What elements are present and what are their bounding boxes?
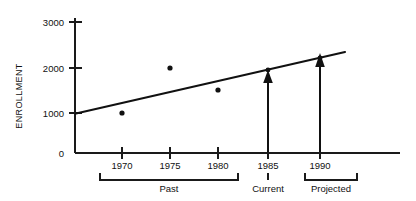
x-tick-label-1970: 1970 bbox=[111, 160, 132, 171]
y-tick-label-1000: 1000 bbox=[43, 108, 64, 119]
x-tick-label-1990: 1990 bbox=[309, 160, 330, 171]
x-tick-label-1980: 1980 bbox=[207, 160, 228, 171]
x-tick-label-1975: 1975 bbox=[159, 160, 180, 171]
x-tick-label-1985: 1985 bbox=[257, 160, 278, 171]
y-tick-label-0: 0 bbox=[59, 148, 64, 159]
chart-canvas: ENROLLMENT 3000 2000 1000 0 1970 1975 19… bbox=[0, 0, 416, 201]
y-axis-title: ENROLLMENT bbox=[14, 63, 24, 129]
current-label: Current bbox=[252, 183, 284, 194]
past-bracket bbox=[100, 173, 238, 180]
y-tick-label-2000: 2000 bbox=[43, 63, 64, 74]
data-point-1975 bbox=[167, 65, 172, 70]
data-point-1970 bbox=[119, 110, 124, 115]
projected-bracket bbox=[305, 173, 357, 180]
current-arrow-head-icon bbox=[263, 70, 273, 83]
data-point-1980 bbox=[215, 87, 220, 92]
y-tick-label-3000: 3000 bbox=[43, 17, 64, 28]
projected-arrow-head-icon bbox=[315, 53, 325, 67]
projected-label: Projected bbox=[311, 183, 351, 194]
enrollment-chart: ENROLLMENT 3000 2000 1000 0 1970 1975 19… bbox=[0, 0, 416, 201]
trend-line bbox=[76, 52, 345, 114]
past-label: Past bbox=[159, 183, 178, 194]
